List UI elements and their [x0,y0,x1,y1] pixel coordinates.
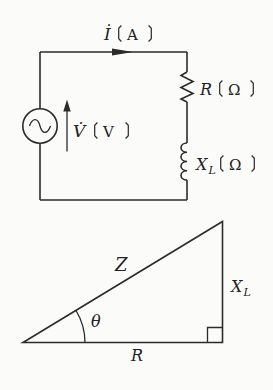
resistor-symbol: R [199,80,212,99]
right-angle-marker [208,328,223,343]
angle-arc [76,311,85,343]
ac-source [23,109,57,143]
angle-label: θ [91,312,101,331]
inductor-coil [181,143,187,180]
resistor-zigzag [181,72,193,102]
tortoise-bracket-open-icon [95,123,98,139]
current-unit: A [126,26,138,44]
voltage-label: V̇ V [73,121,128,141]
impedance-triangle: Z θ X L R [23,222,251,366]
reactance-subscript: L [208,164,216,177]
current-symbol: İ [103,24,111,44]
voltage-arrow-icon [63,100,70,112]
current-arrow-icon [112,48,133,55]
circuit-diagram: İ A V̇ V R Ω [23,24,255,200]
reactance-unit: Ω [229,156,241,174]
impedance-label: Z [114,254,128,275]
textbook-figure: İ A V̇ V R Ω [0,0,273,390]
triangle-outline [23,222,223,343]
triangle-reactance-label: X L [229,277,251,299]
tortoise-bracket-open-icon [220,81,223,97]
triangle-reactance-symbol: X [229,277,243,296]
tortoise-bracket-close-icon [251,81,254,97]
tortoise-bracket-open-icon [221,156,224,172]
rl-circuit-and-impedance-triangle-figure: İ A V̇ V R Ω [0,0,273,390]
voltage-unit: V [102,123,115,141]
tortoise-bracket-close-icon [252,156,255,172]
triangle-resistance-label: R [130,346,143,365]
tortoise-bracket-close-icon [149,26,152,42]
triangle-reactance-subscript: L [243,286,251,299]
voltage-symbol: V̇ [73,121,87,141]
sine-wave-icon [30,120,51,133]
tortoise-bracket-close-icon [126,123,129,139]
inductive-reactance-label: X L Ω [194,155,254,177]
resistor-label: R Ω [199,80,253,99]
voltage-arrow [63,100,70,152]
tortoise-bracket-open-icon [119,26,122,42]
reactance-symbol: X [194,155,208,174]
resistor-unit: Ω [228,81,240,99]
current-label: İ A [103,24,151,44]
